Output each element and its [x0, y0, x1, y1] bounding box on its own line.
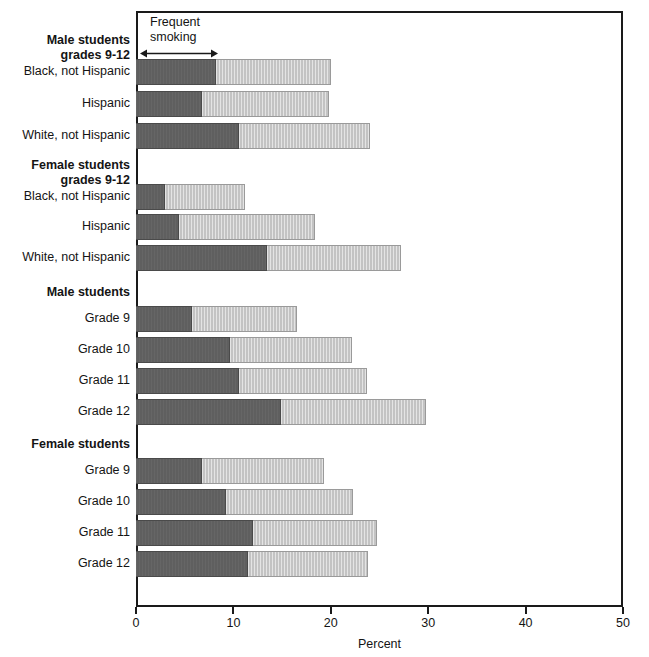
bar-segment-frequent-smoking — [136, 489, 226, 515]
stacked-bar — [136, 458, 324, 484]
x-axis-tick — [622, 607, 624, 614]
stacked-bar — [136, 337, 352, 363]
bar-segment-frequent-smoking — [136, 458, 202, 484]
bar-segment-current-smoking — [216, 59, 331, 85]
bar-segment-current-smoking — [253, 520, 377, 546]
bar-segment-frequent-smoking — [136, 245, 267, 271]
bar-row-label: Grade 11 — [0, 525, 130, 540]
bar-segment-frequent-smoking — [136, 399, 281, 425]
stacked-bar — [136, 399, 426, 425]
bar-segment-current-smoking — [239, 123, 370, 149]
bar-segment-frequent-smoking — [136, 368, 239, 394]
stacked-bar — [136, 489, 353, 515]
bar-row-label: Hispanic — [0, 219, 130, 234]
bar-segment-frequent-smoking — [136, 306, 192, 332]
bar-segment-current-smoking — [179, 214, 315, 240]
x-axis-tick — [330, 607, 332, 614]
x-axis-tick-label: 30 — [408, 616, 448, 630]
bar-segment-frequent-smoking — [136, 59, 216, 85]
group-heading-line-1: Female students — [0, 158, 130, 173]
x-axis-tick-label: 0 — [116, 616, 156, 630]
bar-row-label: Hispanic — [0, 96, 130, 111]
bar-segment-current-smoking — [202, 458, 324, 484]
stacked-bar — [136, 214, 315, 240]
bar-row-label: White, not Hispanic — [0, 128, 130, 143]
bar-segment-frequent-smoking — [136, 551, 248, 577]
group-heading-line-1: Female students — [0, 437, 130, 452]
x-axis-tick-label: 40 — [506, 616, 546, 630]
bar-segment-current-smoking — [281, 399, 426, 425]
bar-segment-current-smoking — [165, 184, 245, 210]
bar-row-label: White, not Hispanic — [0, 250, 130, 265]
stacked-bar — [136, 123, 370, 149]
bar-segment-current-smoking — [239, 368, 367, 394]
bar-row-label: Grade 9 — [0, 311, 130, 326]
bar-segment-frequent-smoking — [136, 184, 165, 210]
group-heading-line-2: grades 9-12 — [0, 48, 130, 63]
bar-row-label: Black, not Hispanic — [0, 189, 130, 204]
x-axis-title: Percent — [136, 637, 623, 651]
x-axis-tick — [427, 607, 429, 614]
bar-segment-current-smoking — [248, 551, 368, 577]
frequent-smoking-annotation: Frequent smoking — [140, 15, 260, 44]
stacked-bar — [136, 59, 331, 85]
bar-segment-frequent-smoking — [136, 214, 179, 240]
group-heading-line-2: grades 9-12 — [0, 173, 130, 188]
x-axis: Percent 01020304050 — [0, 607, 649, 657]
group-heading: Female students — [0, 437, 130, 452]
bar-row-label: Grade 11 — [0, 373, 130, 388]
stacked-bar — [136, 520, 377, 546]
x-axis-tick — [135, 607, 137, 614]
bar-segment-current-smoking — [267, 245, 400, 271]
bar-segment-current-smoking — [230, 337, 353, 363]
bar-segment-current-smoking — [202, 91, 329, 117]
bar-row-label: Grade 9 — [0, 463, 130, 478]
bar-segment-frequent-smoking — [136, 123, 239, 149]
x-axis-tick-label: 20 — [311, 616, 351, 630]
bar-segment-frequent-smoking — [136, 91, 202, 117]
bar-row-label: Grade 12 — [0, 404, 130, 419]
x-axis-tick — [525, 607, 527, 614]
x-axis-tick-label: 10 — [213, 616, 253, 630]
group-heading-line-1: Male students — [0, 33, 130, 48]
bar-row-label: Black, not Hispanic — [0, 64, 130, 79]
stacked-bar — [136, 306, 297, 332]
x-axis-tick — [232, 607, 234, 614]
bar-segment-frequent-smoking — [136, 520, 253, 546]
x-axis-tick-label: 50 — [603, 616, 643, 630]
stacked-bar — [136, 368, 367, 394]
bar-segment-current-smoking — [192, 306, 296, 332]
double-arrow-icon — [140, 48, 218, 59]
bar-row-label: Grade 12 — [0, 556, 130, 571]
group-heading-line-1: Male students — [0, 285, 130, 300]
stacked-bar — [136, 245, 401, 271]
stacked-bar — [136, 551, 368, 577]
stacked-bar — [136, 184, 245, 210]
group-heading: Male studentsgrades 9-12 — [0, 33, 130, 62]
bar-segment-current-smoking — [226, 489, 354, 515]
group-heading: Female studentsgrades 9-12 — [0, 158, 130, 187]
bar-row-label: Grade 10 — [0, 342, 130, 357]
annotation-line-2: smoking — [140, 30, 260, 45]
bar-segment-frequent-smoking — [136, 337, 230, 363]
stacked-bar — [136, 91, 329, 117]
annotation-line-1: Frequent — [140, 15, 260, 30]
bar-row-label: Grade 10 — [0, 494, 130, 509]
stacked-bar-chart: Male studentsgrades 9-12Black, not Hispa… — [0, 0, 649, 657]
group-heading: Male students — [0, 285, 130, 300]
